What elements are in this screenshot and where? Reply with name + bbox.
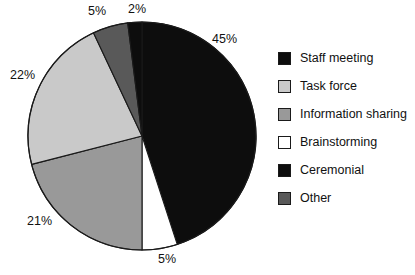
pie-slice-group bbox=[28, 22, 256, 250]
legend-item-information-sharing[interactable]: Information sharing bbox=[278, 100, 415, 128]
slice-label-other: 5% bbox=[88, 4, 106, 18]
slice-label-information-sharing: 21% bbox=[27, 214, 52, 228]
slice-label-brainstorming: 5% bbox=[158, 252, 176, 266]
legend-color-swatch bbox=[278, 136, 291, 149]
legend-label: Brainstorming bbox=[300, 136, 377, 149]
legend-label: Staff meeting bbox=[300, 52, 373, 65]
legend-color-swatch bbox=[278, 52, 291, 65]
pie-chart-figure: 45%5%21%22%5%2% Staff meetingTask forceI… bbox=[0, 0, 415, 275]
legend-color-swatch bbox=[278, 192, 291, 205]
slice-label-staff-meeting: 45% bbox=[212, 32, 237, 46]
legend-color-swatch bbox=[278, 108, 291, 121]
legend-item-brainstorming[interactable]: Brainstorming bbox=[278, 128, 415, 156]
legend-label: Task force bbox=[300, 80, 357, 93]
legend-item-other[interactable]: Other bbox=[278, 184, 415, 212]
slice-label-task-force: 22% bbox=[10, 68, 35, 82]
legend-item-staff-meeting[interactable]: Staff meeting bbox=[278, 44, 415, 72]
legend-color-swatch bbox=[278, 164, 291, 177]
legend-label: Ceremonial bbox=[300, 164, 364, 177]
chart-legend: Staff meetingTask forceInformation shari… bbox=[278, 44, 415, 212]
slice-label-ceremonial: 2% bbox=[128, 2, 146, 16]
legend-item-task-force[interactable]: Task force bbox=[278, 72, 415, 100]
legend-color-swatch bbox=[278, 80, 291, 93]
legend-item-ceremonial[interactable]: Ceremonial bbox=[278, 156, 415, 184]
pie-plot-area: 45%5%21%22%5%2% bbox=[0, 0, 275, 275]
legend-label: Information sharing bbox=[300, 108, 407, 121]
legend-label: Other bbox=[300, 192, 331, 205]
